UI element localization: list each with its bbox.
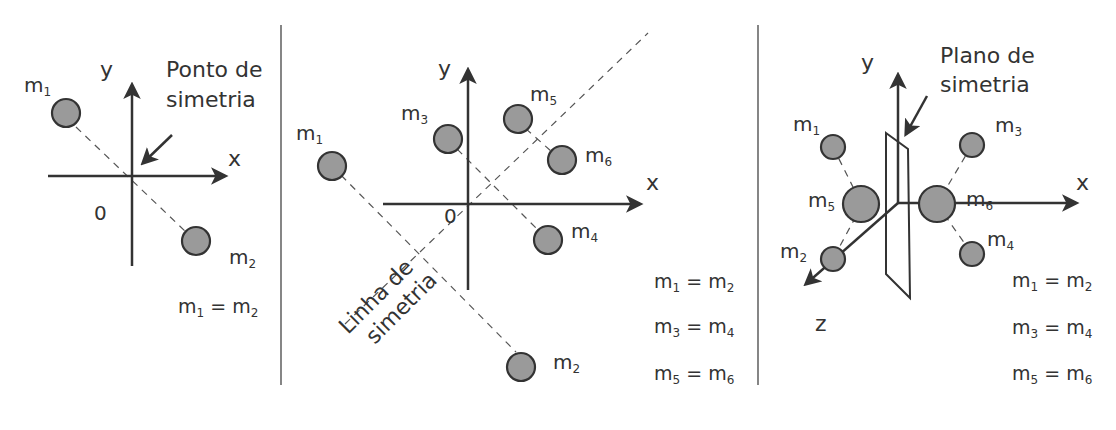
mass-label-m2: m2 bbox=[229, 245, 256, 271]
mass-label-m1: m1 bbox=[296, 121, 323, 147]
dash-m3-m4 bbox=[448, 140, 546, 238]
mass-m2 bbox=[182, 227, 210, 255]
annotation-line2: simetria bbox=[166, 87, 256, 112]
origin-label: 0 bbox=[444, 204, 457, 228]
mass-m2 bbox=[507, 353, 535, 381]
mass-m5 bbox=[504, 105, 532, 133]
annotation-line1: Ponto de bbox=[166, 57, 262, 82]
mass-label-m5: m5 bbox=[530, 82, 557, 108]
symmetry-line-annotation: Linha de simetria bbox=[334, 249, 442, 357]
mass-label-m4: m4 bbox=[571, 219, 598, 245]
mass-m3 bbox=[960, 133, 984, 157]
mass-label-m6: m6 bbox=[585, 143, 612, 169]
mass-m1 bbox=[52, 99, 80, 127]
mass-label-m2: m2 bbox=[553, 350, 580, 376]
y-axis-label: y bbox=[100, 57, 113, 82]
equation-m1-m2: m1 = m2 bbox=[654, 270, 734, 295]
pointer-arrow-icon bbox=[143, 135, 172, 163]
equation-m3-m4: m3 = m4 bbox=[654, 315, 734, 340]
panel-plane-symmetry: y x z Plano de simetria m1 m2 m3 m4 m5 m… bbox=[780, 43, 1092, 387]
equation-m5-m6: m5 = m6 bbox=[1012, 362, 1092, 387]
mass-m5 bbox=[843, 186, 879, 222]
symmetry-diagram: y x 0 Ponto de simetria m1 m2 m1 = m2 y … bbox=[0, 0, 1116, 430]
mass-m4 bbox=[534, 226, 562, 254]
equation-m3-m4: m3 = m4 bbox=[1012, 316, 1092, 341]
origin-label: 0 bbox=[94, 201, 107, 225]
mass-label-m5: m5 bbox=[808, 188, 835, 214]
annotation-line1: Plano de bbox=[940, 43, 1035, 68]
mass-m6 bbox=[548, 146, 576, 174]
mass-m6 bbox=[919, 186, 955, 222]
panel-line-symmetry: y x 0 Linha de simetria m1 m2 m3 m4 m5 m… bbox=[296, 33, 734, 387]
mass-label-m1: m1 bbox=[24, 73, 51, 99]
panel-point-symmetry: y x 0 Ponto de simetria m1 m2 m1 = m2 bbox=[24, 57, 262, 320]
x-axis-label: x bbox=[1076, 170, 1089, 195]
mass-m1 bbox=[318, 152, 346, 180]
z-axis-label: z bbox=[815, 311, 827, 336]
equation-m5-m6: m5 = m6 bbox=[654, 362, 734, 387]
mass-label-m6: m6 bbox=[966, 187, 993, 213]
mass-label-m3: m3 bbox=[995, 113, 1022, 139]
mass-m4 bbox=[960, 242, 984, 266]
mass-label-m3: m3 bbox=[401, 101, 428, 127]
equation-m1-m2: m1 = m2 bbox=[178, 295, 258, 320]
pointer-arrow-icon bbox=[906, 96, 927, 134]
mass-m1 bbox=[821, 135, 845, 159]
equation-m1-m2: m1 = m2 bbox=[1012, 269, 1092, 294]
x-axis-label: x bbox=[228, 146, 241, 171]
mass-label-m4: m4 bbox=[987, 227, 1014, 253]
mass-m2 bbox=[821, 247, 845, 271]
y-axis-label: y bbox=[438, 56, 451, 81]
y-axis-label: y bbox=[861, 50, 874, 75]
mass-label-m1: m1 bbox=[793, 112, 820, 138]
mass-m3 bbox=[434, 125, 462, 153]
annotation-line2: simetria bbox=[940, 72, 1030, 97]
symmetry-plane bbox=[886, 133, 910, 298]
mass-label-m2: m2 bbox=[780, 239, 807, 265]
x-axis-label: x bbox=[646, 170, 659, 195]
